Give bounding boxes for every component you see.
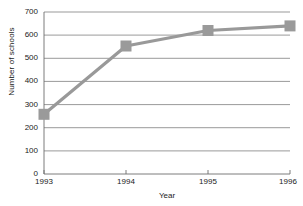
x-axis-tick-labels: 1993 1994 1995 1996 — [0, 178, 303, 190]
line-chart: Number of schools 0 100 200 300 400 500 … — [0, 0, 303, 206]
x-tick-label: 1994 — [117, 178, 135, 186]
data-point-1995 — [203, 25, 214, 36]
x-tick-label: 1996 — [279, 178, 297, 186]
gridlines — [44, 12, 290, 151]
data-point-1994 — [121, 41, 132, 52]
data-point-1996 — [285, 20, 296, 31]
x-tick-label: 1995 — [199, 178, 217, 186]
series-line — [44, 26, 290, 114]
x-axis-title: Year — [44, 191, 290, 200]
data-point-1993 — [39, 109, 50, 120]
plot-area — [0, 0, 303, 206]
x-axis-ticks — [44, 170, 290, 174]
x-tick-label: 1993 — [35, 178, 53, 186]
